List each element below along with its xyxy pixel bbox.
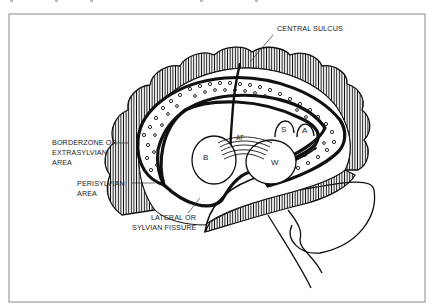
label-borderzone-line3: AREA	[52, 158, 72, 167]
label-wernicke: W	[271, 158, 279, 167]
label-central-sulcus: CENTRAL SULCUS	[277, 24, 343, 33]
label-supramarginal: S	[281, 125, 286, 134]
cropped-caption-fragments	[10, 0, 258, 2]
label-arcuate-fasciculus: AF	[236, 134, 244, 141]
label-borderzone-line2: EXTRASYLVIAN	[52, 148, 107, 157]
label-lateral-fissure-line2: SYLVIAN FISSURE	[132, 223, 197, 232]
brain-diagram: B W AF S A CENTRAL SULCUS BORDERZONE OR …	[0, 0, 434, 307]
label-borderzone-line1: BORDERZONE OR	[52, 138, 117, 147]
label-perisylvian-line1: PERISYLVIAN	[77, 179, 125, 188]
label-lateral-fissure-line1: LATERAL OR	[151, 213, 196, 222]
label-angular: A	[302, 126, 308, 135]
label-perisylvian-line2: AREA	[77, 189, 97, 198]
label-broca: B	[203, 153, 208, 162]
